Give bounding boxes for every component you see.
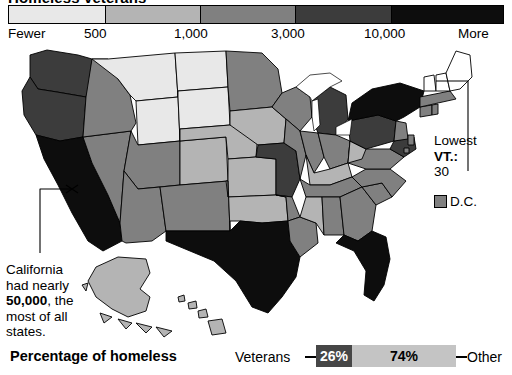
state-de [408,135,414,145]
state-mn [226,51,282,111]
legend-tick-500: 500 [84,26,107,41]
footer-other-label: Other [467,349,502,365]
vermont-annotation: Lowest VT.: 30 [434,133,510,180]
percentage-footer: Percentage of homeless Veterans 26% 74% … [0,343,512,375]
legend-tick-10000: 10,000 [364,26,405,41]
dc-legend: D.C. [434,194,477,209]
legend-band-500 [106,6,201,23]
legend-band-1000 [201,6,297,23]
dc-marker [404,148,409,153]
state-hi [178,295,226,335]
state-nm [160,181,230,231]
legend-band-fewer [9,6,106,23]
ca-note-line2: had nearly [6,278,69,293]
dc-legend-label: D.C. [450,194,477,209]
percentage-bar: 26% 74% [316,345,456,367]
vt-lowest-label: Lowest [434,133,510,149]
legend-tick-fewer: Fewer [8,26,46,41]
state-tx [166,221,300,313]
state-ks [226,157,276,197]
state-ri [432,104,438,115]
state-pa [348,115,396,149]
ca-note-line5: states. [6,324,46,339]
state-co [180,137,228,185]
ca-note-line3: , the [47,293,73,308]
legend-tick-more: More [458,26,489,41]
legend-tick-labels: Fewer 500 1,000 3,000 10,000 More [0,26,512,42]
footer-title: Percentage of homeless [10,348,177,364]
state-fl [336,231,390,301]
other-leader-line [456,356,467,358]
vt-state-label: VT.: [434,149,510,165]
vt-value: 30 [434,164,510,180]
ca-note-line1: California [6,262,63,277]
state-nj [394,121,408,141]
legend-band-10000 [392,6,503,23]
segment-veterans: 26% [316,345,352,367]
legend-tick-3000: 3,000 [271,26,305,41]
state-wy [136,97,180,145]
legend-color-ramp [8,5,504,24]
ca-note-value: 50,000 [6,293,47,308]
veterans-leader-line [305,356,316,358]
state-ny [348,83,424,121]
homeless-veterans-map-figure: Homeless veterans Fewer 500 1,000 3,000 … [0,0,512,375]
ca-note-line4: most of all [6,309,68,324]
california-annotation: California had nearly 50,000, the most o… [6,262,106,340]
footer-veterans-label: Veterans [235,349,290,365]
dc-swatch-icon [434,195,447,208]
state-vt [424,75,436,91]
segment-other: 74% [352,345,456,367]
legend-tick-1000: 1,000 [174,26,208,41]
legend-band-3000 [296,6,392,23]
